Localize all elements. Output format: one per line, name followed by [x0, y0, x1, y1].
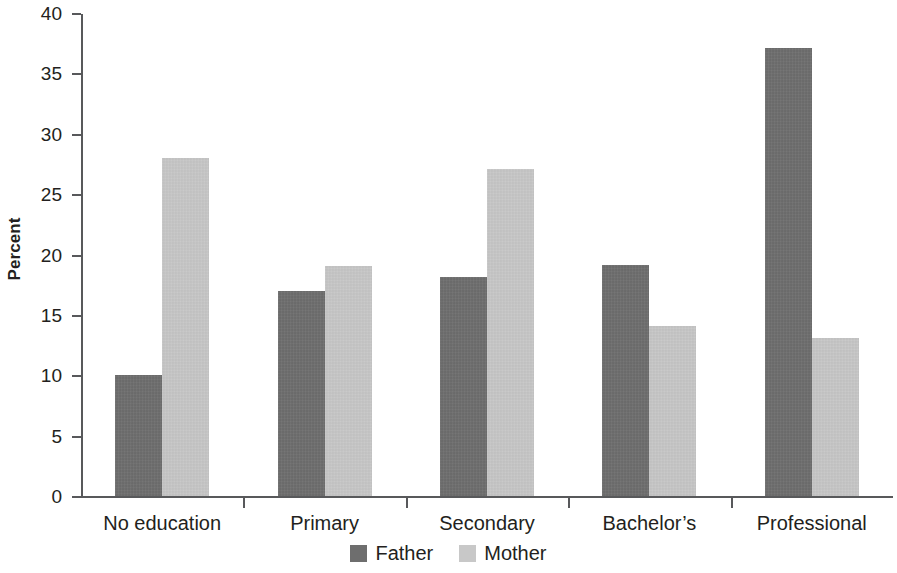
y-axis-tick: [72, 13, 81, 15]
bar-mother-primary: [325, 266, 372, 497]
x-axis-category-label: Primary: [243, 511, 405, 535]
legend-label: Mother: [484, 543, 546, 563]
bar-father-no-education: [115, 375, 162, 497]
y-axis-tick-label: 25: [24, 185, 62, 204]
bar-father-secondary: [440, 277, 487, 497]
y-axis-tick: [72, 194, 81, 196]
y-axis-tick: [72, 134, 81, 136]
legend-label: Father: [375, 543, 433, 563]
x-axis-line: [81, 496, 893, 498]
y-axis-tick-label: 30: [24, 125, 62, 144]
bar-mother-no-education: [162, 158, 209, 497]
x-axis-tick: [243, 498, 245, 508]
x-axis-tick: [568, 498, 570, 508]
x-axis-category-label: Secondary: [406, 511, 568, 535]
bar-mother-professional: [812, 338, 859, 497]
y-axis-tick: [72, 375, 81, 377]
y-axis-tick: [72, 255, 81, 257]
bar-father-bachelor-s: [602, 265, 649, 497]
legend-item-mother[interactable]: Mother: [459, 543, 546, 563]
y-axis-tick-label: 0: [24, 487, 62, 506]
y-axis-tick-label: 10: [24, 366, 62, 385]
x-axis-tick: [406, 498, 408, 508]
legend-swatch-mother-icon: [459, 545, 476, 562]
plot-area: [81, 14, 893, 497]
y-axis-title-text: Percent: [5, 217, 25, 280]
y-axis-tick-label: 35: [24, 64, 62, 83]
bar-father-professional: [765, 48, 812, 497]
y-axis-tick: [72, 73, 81, 75]
legend-swatch-father-icon: [350, 545, 367, 562]
x-axis-category-label: Professional: [731, 511, 893, 535]
y-axis-tick-label: 15: [24, 306, 62, 325]
x-axis-category-label: Bachelor’s: [568, 511, 730, 535]
bar-mother-secondary: [487, 169, 534, 497]
y-axis-tick: [72, 496, 81, 498]
bar-mother-bachelor-s: [649, 326, 696, 497]
x-axis-category-label: No education: [81, 511, 243, 535]
y-axis-tick-label: 20: [24, 246, 62, 265]
chart-legend: FatherMother: [0, 543, 897, 563]
bar-father-primary: [278, 291, 325, 497]
y-axis-tick: [72, 315, 81, 317]
y-axis-tick: [72, 436, 81, 438]
x-axis-tick: [731, 498, 733, 508]
bar-chart: Percent 0510152025303540 No educationPri…: [0, 0, 897, 573]
y-axis-tick-label: 5: [24, 427, 62, 446]
y-axis-tick-label: 40: [24, 4, 62, 23]
legend-item-father[interactable]: Father: [350, 543, 433, 563]
